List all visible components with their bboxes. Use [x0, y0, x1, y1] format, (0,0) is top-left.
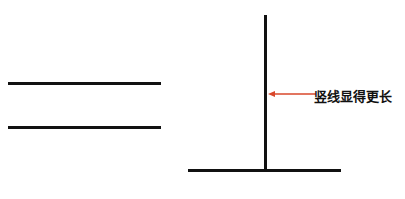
arrow-left-icon [268, 89, 318, 99]
t-vertical-line [264, 15, 267, 171]
annotation-label: 竖线显得更长 [314, 86, 392, 105]
left-top-horizontal-line [8, 82, 161, 85]
left-bottom-horizontal-line [8, 126, 161, 129]
